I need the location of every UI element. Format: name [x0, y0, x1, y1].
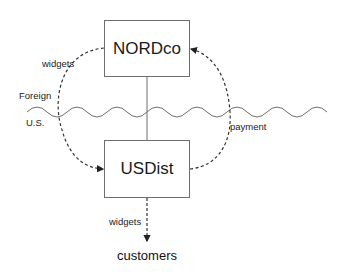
usdist-node: USDist: [104, 140, 190, 198]
nordco-label: NORDco: [113, 39, 181, 59]
payment-flow-label: payment: [230, 121, 266, 132]
region-foreign-label: Foreign: [19, 90, 51, 101]
region-us-label: U.S.: [26, 117, 44, 128]
customers-node: customers: [117, 248, 177, 263]
payment-flow-arrow: [190, 49, 230, 169]
usdist-label: USDist: [121, 159, 174, 179]
nordco-node: NORDco: [104, 20, 190, 77]
widgets-flow-label: widgets: [42, 58, 74, 69]
border-wave: [27, 107, 327, 117]
customers-widgets-label: widgets: [109, 216, 141, 227]
